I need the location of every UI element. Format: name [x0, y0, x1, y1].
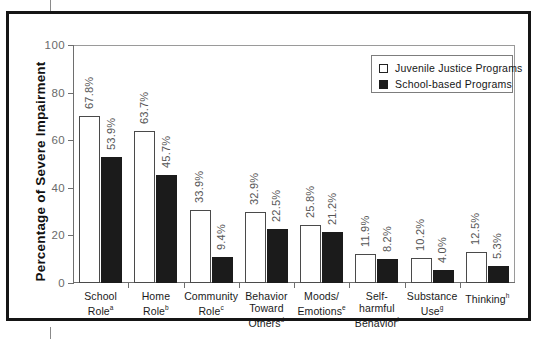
crop-mark-bottom — [50, 327, 51, 339]
y-tick-mark — [68, 283, 74, 284]
bar-school-based[interactable]: 5.3% — [488, 266, 509, 283]
x-tick-mark — [294, 283, 295, 288]
x-tick-mark — [405, 283, 406, 288]
legend-swatch-hollow-square-icon — [379, 64, 388, 73]
bar-juvenile-justice[interactable]: 11.9% — [355, 254, 376, 283]
bar-group: 67.8%53.9% — [73, 45, 128, 283]
bar-value-label: 8.2% — [381, 226, 393, 252]
footnote-marker: c — [220, 304, 223, 311]
bar-value-label: 12.5% — [469, 213, 481, 245]
legend-item-juvenile-justice[interactable]: Juvenile Justice Programs — [379, 61, 505, 75]
bar-value-label: 67.8% — [83, 77, 95, 109]
footnote-marker: g — [440, 304, 444, 311]
bar-value-label: 21.2% — [326, 193, 338, 225]
bar-school-based[interactable]: 4.0% — [433, 270, 454, 283]
bar-value-label: 53.9% — [105, 118, 117, 150]
x-tick-mark — [349, 283, 350, 288]
bar-value-label: 22.5% — [270, 190, 282, 222]
legend: Juvenile Justice Programs School-based P… — [371, 55, 513, 93]
footnote-marker: d — [281, 316, 285, 323]
y-tick-label: 40 — [35, 182, 65, 194]
bar-school-based[interactable]: 22.5% — [267, 229, 288, 283]
bar-school-based[interactable]: 53.9% — [101, 157, 122, 283]
figure-frame: Percentage of Severe Impairment 02040608… — [6, 11, 531, 321]
bar-value-label: 33.9% — [193, 171, 205, 203]
x-axis-category-label: Thinkingh — [452, 290, 523, 305]
bar-school-based[interactable]: 21.2% — [322, 232, 343, 283]
bar-value-label: 11.9% — [359, 216, 371, 247]
bar-juvenile-justice[interactable]: 12.5% — [466, 252, 487, 283]
bar-value-label: 4.0% — [436, 237, 448, 263]
bar-juvenile-justice[interactable]: 33.9% — [190, 210, 211, 283]
bar-juvenile-justice[interactable]: 63.7% — [134, 131, 155, 283]
category-labels: SchoolRoleaHomeRolebCommunityRolecBehavi… — [73, 290, 515, 336]
x-tick-mark — [239, 283, 240, 288]
bar-school-based[interactable]: 9.4% — [212, 257, 233, 283]
bar-group: 63.7%45.7% — [128, 45, 183, 283]
bar-value-label: 10.2% — [414, 219, 426, 251]
footnote-marker: h — [506, 292, 510, 299]
bar-value-label: 9.4% — [215, 224, 227, 250]
footnote-marker: a — [110, 304, 114, 311]
legend-label: Juvenile Justice Programs — [395, 62, 523, 74]
bar-value-label: 5.3% — [491, 233, 503, 259]
bar-juvenile-justice[interactable]: 32.9% — [245, 212, 266, 283]
legend-item-school-based[interactable]: School-based Programs — [379, 77, 505, 91]
y-tick-label: 100 — [35, 39, 65, 51]
bar-school-based[interactable]: 45.7% — [156, 175, 177, 283]
legend-label: School-based Programs — [395, 78, 512, 90]
bar-juvenile-justice[interactable]: 25.8% — [300, 225, 321, 283]
category-label-line: Thinkingh — [452, 290, 523, 305]
legend-swatch-filled-square-icon — [379, 80, 388, 89]
bar-value-label: 32.9% — [248, 172, 260, 204]
bar-value-label: 45.7% — [160, 136, 172, 168]
y-tick-label: 60 — [35, 134, 65, 146]
y-tick-label: 20 — [35, 229, 65, 241]
figure-container: Percentage of Severe Impairment 02040608… — [0, 0, 537, 339]
x-tick-mark — [128, 283, 129, 288]
bar-school-based[interactable]: 8.2% — [377, 259, 398, 283]
x-tick-mark — [460, 283, 461, 288]
bar-value-label: 63.7% — [138, 91, 150, 123]
bar-value-label: 25.8% — [304, 186, 316, 218]
footnote-marker: b — [165, 304, 169, 311]
bar-group: 33.9%9.4% — [184, 45, 239, 283]
y-tick-label: 80 — [35, 87, 65, 99]
bar-juvenile-justice[interactable]: 10.2% — [411, 258, 432, 283]
bar-group: 32.9%22.5% — [239, 45, 294, 283]
x-tick-mark — [184, 283, 185, 288]
bar-juvenile-justice[interactable]: 67.8% — [79, 116, 100, 283]
bar-group: 25.8%21.2% — [294, 45, 349, 283]
y-tick-label: 0 — [35, 277, 65, 289]
footnote-marker: f — [397, 316, 399, 323]
